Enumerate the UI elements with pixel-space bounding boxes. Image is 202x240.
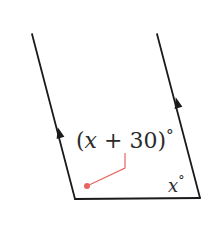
degree-symbol: ° xyxy=(166,126,174,144)
left-parallel-line xyxy=(32,34,75,199)
parallel-arrow-left-icon xyxy=(54,126,65,139)
angle-leader-line xyxy=(87,153,125,186)
label-variable: x xyxy=(85,128,97,153)
label-constant: 30 xyxy=(129,128,157,153)
label-variable: x xyxy=(168,175,178,196)
label-open-paren: ( xyxy=(76,128,85,153)
angle-label-x-plus-30: (x + 30)° xyxy=(76,128,174,152)
degree-symbol: ° xyxy=(178,173,184,188)
transversal-line xyxy=(75,198,200,199)
angle-leader-dot xyxy=(84,183,90,189)
label-operator: + xyxy=(97,128,129,153)
angle-label-x: x° xyxy=(168,175,184,195)
label-close-paren: ) xyxy=(157,128,166,153)
